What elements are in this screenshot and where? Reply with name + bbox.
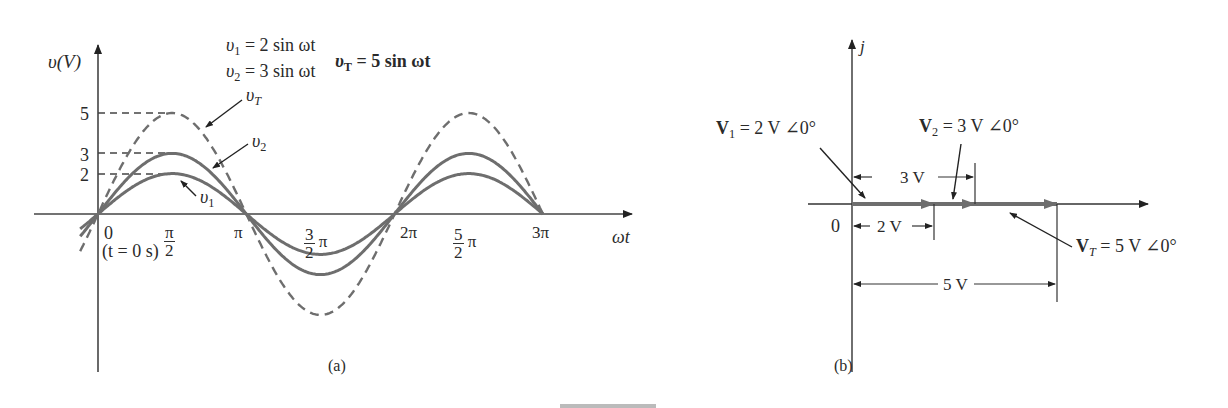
x-tick-half-pi: π2 — [164, 224, 175, 259]
V2-symbol: V — [919, 116, 932, 136]
five-half-pi-symbol: π — [468, 232, 477, 251]
pointer-v1 — [181, 181, 196, 196]
five-half-numerator: 5 — [453, 226, 464, 244]
panel-b-phasor-diagram — [808, 40, 1148, 372]
VT-rhs: = 5 V ∠0° — [1096, 236, 1177, 256]
curve-label-vT: υT — [246, 86, 261, 104]
panel-a-sine-plot — [34, 45, 632, 372]
V1-rhs: = 2 V ∠0° — [735, 118, 816, 138]
equation-v1: υ1 = 2 sin ωt — [226, 36, 315, 54]
V2-rhs: = 3 V ∠0° — [938, 116, 1019, 136]
v2-rhs: = 3 sin ωt — [240, 61, 315, 81]
pointer-VT — [1010, 213, 1072, 247]
curve-v1-subscript: 1 — [208, 196, 214, 210]
y-tick-3: 3 — [80, 146, 89, 164]
caption-b: (b) — [834, 358, 853, 374]
y-tick-2: 2 — [80, 166, 89, 184]
dimension-2V: 2 V — [877, 218, 902, 235]
phasor-label-V1: V1 = 2 V ∠0° — [716, 119, 816, 137]
vT-symbol: υ — [335, 51, 344, 71]
vT-subscript: T — [344, 60, 352, 74]
x-tick-three-half-pi: 32 π — [304, 226, 327, 261]
equation-vT: υT = 5 sin ωt — [335, 52, 430, 70]
half-pi-denominator: 2 — [164, 242, 175, 259]
caption-a: (a) — [328, 358, 346, 374]
equation-v2: υ2 = 3 sin ωt — [226, 62, 315, 80]
VT-symbol: V — [1076, 236, 1089, 256]
VT-subscript: T — [1089, 245, 1096, 259]
x-tick-t0: (t = 0 s) — [102, 242, 159, 260]
figure-caption-clipped — [560, 404, 656, 408]
y-tick-5: 5 — [80, 105, 89, 123]
V1-symbol: V — [716, 118, 729, 138]
x-tick-three-pi: 3π — [532, 224, 549, 241]
y-axis-label-text: υ(V) — [48, 51, 81, 72]
vT-rhs: = 5 sin ωt — [352, 51, 430, 71]
curve-label-v1: υ1 — [200, 188, 214, 206]
v1-rhs: = 2 sin ωt — [240, 35, 315, 55]
phasor-label-V2: V2 = 3 V ∠0° — [919, 117, 1019, 135]
x-tick-zero: 0 — [104, 224, 113, 242]
imag-axis-label: j — [860, 38, 865, 55]
pointer-V1 — [820, 148, 865, 198]
y-axis-label: υ(V) — [48, 52, 81, 71]
three-half-pi-symbol: π — [319, 232, 328, 251]
curve-vT-subscript: T — [254, 94, 261, 108]
dimension-5V: 5 V — [943, 276, 968, 293]
x-tick-five-half-pi: 52 π — [453, 226, 476, 261]
x-axis-label: ωt — [612, 228, 630, 246]
five-half-denominator: 2 — [453, 244, 464, 261]
figure-graphics — [0, 0, 1228, 408]
x-tick-pi: π — [234, 224, 243, 241]
three-half-numerator: 3 — [304, 226, 315, 244]
pointer-v2 — [213, 144, 248, 168]
t0-text: (t = 0 s) — [102, 241, 159, 261]
x-tick-two-pi: 2π — [400, 224, 417, 241]
dimension-3V: 3 V — [900, 169, 925, 186]
curve-label-v2: υ2 — [252, 132, 266, 150]
three-half-denominator: 2 — [304, 244, 315, 261]
pointer-vT — [206, 100, 242, 127]
origin-label: 0 — [831, 217, 840, 235]
pointer-V2 — [953, 144, 961, 199]
half-pi-numerator: π — [164, 224, 175, 242]
phasor-label-VT: VT = 5 V ∠0° — [1076, 237, 1177, 255]
curve-v2-subscript: 2 — [260, 140, 266, 154]
